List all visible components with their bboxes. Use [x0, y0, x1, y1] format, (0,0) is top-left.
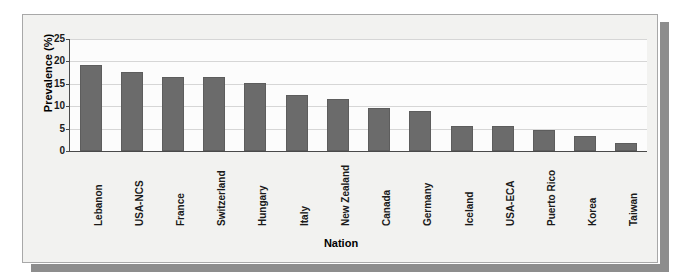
bar [409, 111, 431, 151]
y-axis-tick-mark [66, 61, 70, 62]
x-axis-tick-label: USA-NCS [135, 180, 145, 226]
x-axis-tick-label: Canada [382, 190, 392, 226]
bar [286, 95, 308, 151]
bar [121, 72, 143, 151]
bar-chart: Prevalence (%) 0510152025 LebanonUSA-NCS… [23, 15, 659, 264]
x-axis-tick-label: France [176, 193, 186, 226]
x-axis-tick-label: USA-ECA [506, 180, 516, 226]
bar [244, 83, 266, 151]
gridline [70, 129, 647, 130]
y-axis-tick-label: 20 [43, 56, 65, 66]
x-axis-tick-labels: LebanonUSA-NCSFranceSwitzerlandHungaryIt… [69, 154, 646, 232]
figure-shadow-bottom [31, 264, 669, 272]
plot-area [69, 39, 647, 152]
bar [80, 65, 102, 151]
x-axis-tick-label: Hungary [258, 185, 268, 226]
y-axis-tick-label: 5 [43, 124, 65, 134]
y-axis-tick-label: 15 [43, 79, 65, 89]
figure-shadow-right [660, 22, 669, 271]
bar [368, 108, 390, 151]
y-axis-tick-mark [66, 39, 70, 40]
bar [203, 77, 225, 151]
bar [533, 130, 555, 152]
bar [327, 99, 349, 151]
gridline [70, 61, 647, 62]
x-axis-title: Nation [23, 237, 659, 249]
y-axis-tick-mark [66, 84, 70, 85]
x-axis-tick-label: Puerto Rico [547, 170, 557, 226]
x-axis-tick-label: Germany [423, 183, 433, 226]
x-axis-tick-label: Switzerland [217, 170, 227, 226]
figure-panel: Prevalence (%) 0510152025 LebanonUSA-NCS… [22, 14, 658, 263]
y-axis-tick-mark [66, 151, 70, 152]
gridline [70, 84, 647, 85]
gridline [70, 106, 647, 107]
x-axis-tick-label: Iceland [465, 192, 475, 226]
y-axis-tick-mark [66, 106, 70, 107]
bar [492, 126, 514, 151]
x-axis-tick-label: Korea [588, 198, 598, 226]
bar [574, 136, 596, 151]
x-axis-tick-label: Italy [300, 206, 310, 226]
y-axis-tick-labels: 0510152025 [37, 39, 65, 151]
bar [615, 143, 637, 151]
bar [451, 126, 473, 151]
y-axis-tick-label: 10 [43, 101, 65, 111]
y-axis-tick-label: 0 [43, 146, 65, 156]
x-axis-tick-label: New Zealand [341, 165, 351, 226]
x-axis-tick-label: Taiwan [629, 193, 639, 226]
y-axis-tick-label: 25 [43, 34, 65, 44]
y-axis-tick-mark [66, 129, 70, 130]
bar [162, 77, 184, 151]
x-axis-tick-label: Lebanon [94, 184, 104, 226]
gridline [70, 39, 647, 40]
